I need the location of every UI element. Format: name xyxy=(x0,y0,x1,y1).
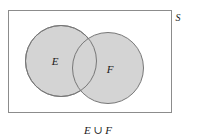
figure-caption: E ∪ F xyxy=(83,124,112,136)
set-label-e: E xyxy=(51,55,59,67)
venn-diagram-canvas: E F S E ∪ F xyxy=(0,0,197,137)
set-label-f: F xyxy=(106,63,114,75)
venn-diagram-figure: E F S E ∪ F xyxy=(0,0,197,137)
universal-set-label-s: S xyxy=(176,12,181,23)
